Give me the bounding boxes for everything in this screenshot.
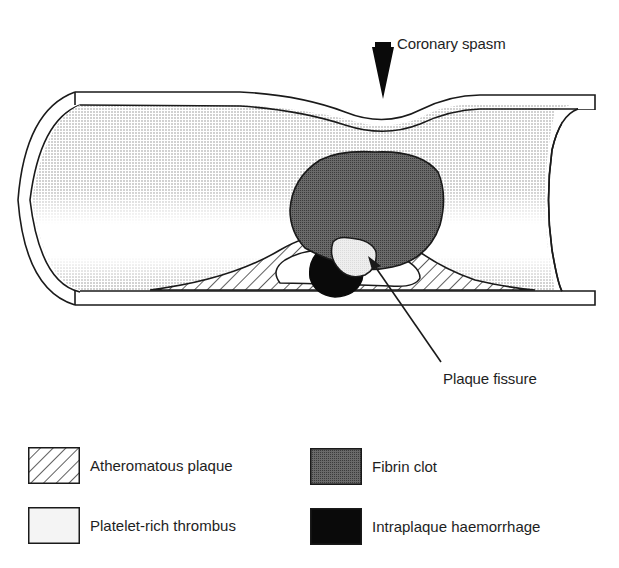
legend-item-platelet-thrombus: Platelet-rich thrombus bbox=[28, 507, 236, 544]
legend-item-intraplaque-haemorrhage: Intraplaque haemorrhage bbox=[310, 508, 540, 545]
legend-item-atheromatous-plaque: Atheromatous plaque bbox=[28, 447, 233, 484]
legend-label: Platelet-rich thrombus bbox=[90, 517, 236, 534]
plaque-fissure-label: Plaque fissure bbox=[443, 370, 537, 387]
black-swatch-icon bbox=[310, 508, 362, 545]
coronary-spasm-label: Coronary spasm bbox=[397, 35, 506, 52]
legend-label: Fibrin clot bbox=[372, 458, 437, 475]
hatch-swatch-icon bbox=[28, 447, 80, 484]
legend-label: Atheromatous plaque bbox=[90, 457, 233, 474]
coronary-spasm-arrow bbox=[372, 42, 394, 99]
legend-item-fibrin-clot: Fibrin clot bbox=[310, 448, 437, 485]
light-swatch-icon bbox=[28, 507, 80, 544]
legend-label: Intraplaque haemorrhage bbox=[372, 518, 540, 535]
dark-stipple-swatch-icon bbox=[310, 448, 362, 485]
